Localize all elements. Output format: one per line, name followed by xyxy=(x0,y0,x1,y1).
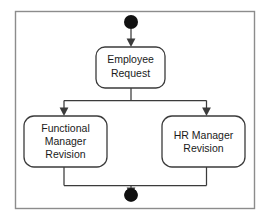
employee-request-label-line1: Employee xyxy=(107,53,154,65)
initial-node[interactable] xyxy=(124,15,138,29)
activity-frame xyxy=(16,12,255,209)
hr-manager-revision-label-line1: HR Manager xyxy=(174,129,234,141)
final-node[interactable] xyxy=(125,189,138,202)
functional-manager-revision-label-line3: Revision xyxy=(45,148,85,160)
functional-manager-revision-label-line1: Functional xyxy=(41,122,89,134)
functional-manager-revision[interactable]: Functional Manager Revision xyxy=(24,116,107,167)
functional-manager-revision-label-line2: Manager xyxy=(45,135,87,147)
diagram-canvas: Employee Request Functional Manager Revi… xyxy=(0,0,267,221)
activity-diagram: Employee Request Functional Manager Revi… xyxy=(0,0,267,221)
employee-request-label-line2: Request xyxy=(111,67,150,79)
hr-manager-revision[interactable]: HR Manager Revision xyxy=(162,116,245,167)
employee-request[interactable]: Employee Request xyxy=(96,47,165,88)
hr-manager-revision-label-line2: Revision xyxy=(183,142,223,154)
